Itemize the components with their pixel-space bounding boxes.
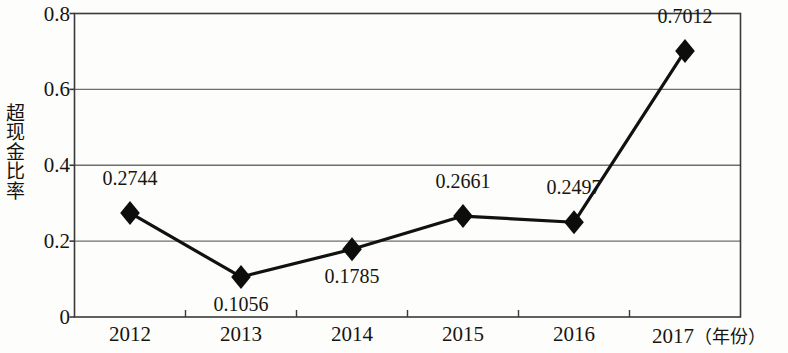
x-axis-tick-label: 2016 xyxy=(553,322,595,347)
line-chart-figure: 超 现 金 比 率 00.20.40.60.8 0.27440.10560.17… xyxy=(0,0,788,353)
data-value-label: 0.1056 xyxy=(214,293,269,316)
data-point-marker xyxy=(231,265,251,289)
x-axis-tick-label: 2014 xyxy=(331,322,373,347)
gridlines xyxy=(70,14,741,318)
x-axis-tick-label: 2012 xyxy=(109,322,151,347)
x-axis-unit-label: （年份） xyxy=(694,326,766,347)
series-line xyxy=(130,51,685,277)
data-value-label: 0.2661 xyxy=(436,170,491,193)
data-value-label: 0.7012 xyxy=(658,5,713,28)
data-value-label: 0.1785 xyxy=(325,265,380,288)
x-axis-tick-label: 2013 xyxy=(220,322,262,347)
data-point-marker xyxy=(120,201,140,225)
x-axis-tick-label: 2017（年份） xyxy=(652,322,766,349)
data-point-markers xyxy=(120,39,695,289)
x-axis-tick-label: 2015 xyxy=(442,322,484,347)
data-value-label: 0.2497 xyxy=(547,176,602,199)
data-value-label: 0.2744 xyxy=(103,167,158,190)
data-point-marker xyxy=(453,204,473,228)
